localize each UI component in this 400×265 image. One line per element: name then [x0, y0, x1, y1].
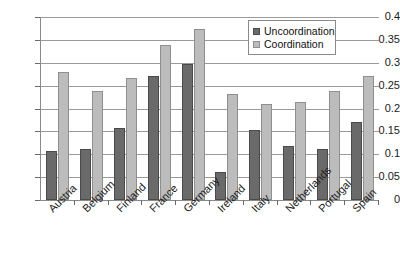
bar-group [109, 17, 143, 200]
legend-swatch-icon [253, 28, 260, 35]
x-tick-mark [74, 200, 75, 205]
x-tick-mark [141, 200, 142, 205]
bar-coordination-germany [194, 29, 205, 200]
legend-swatch-icon [253, 41, 260, 48]
bar-uncoordination-spain [351, 122, 362, 200]
bar-chart: 00.050.10.150.20.250.30.350.4 AustriaBel… [0, 0, 400, 265]
bar-group [176, 17, 210, 200]
bar-uncoordination-germany [182, 64, 193, 200]
x-tick-mark [243, 200, 244, 205]
x-tick-mark [344, 200, 345, 205]
bar-coordination-spain [363, 76, 374, 200]
x-tick-mark [209, 200, 210, 205]
chart-legend: UncoordinationCoordination [248, 20, 336, 55]
x-tick-mark [310, 200, 311, 205]
bar-coordination-austria [58, 72, 69, 200]
bar-uncoordination-france [148, 76, 159, 200]
bar-coordination-finland [126, 78, 137, 200]
bar-uncoordination-austria [46, 151, 57, 200]
legend-label: Uncoordination [264, 26, 335, 37]
bar-group [41, 17, 75, 200]
bar-group [345, 17, 379, 200]
x-tick-mark [175, 200, 176, 205]
bar-coordination-france [160, 45, 171, 200]
legend-item-uncoordination[interactable]: Uncoordination [253, 25, 331, 37]
bar-uncoordination-finland [114, 128, 125, 200]
x-tick-mark [108, 200, 109, 205]
bar-group [210, 17, 244, 200]
x-tick-mark [378, 200, 379, 205]
bar-coordination-italy [261, 104, 272, 200]
bar-group [142, 17, 176, 200]
legend-label: Coordination [264, 39, 324, 50]
bar-uncoordination-italy [249, 130, 260, 200]
bar-group [75, 17, 109, 200]
x-tick-mark [277, 200, 278, 205]
bar-uncoordination-netherlands [283, 146, 294, 200]
legend-item-coordination[interactable]: Coordination [253, 38, 331, 50]
bar-uncoordination-belgium [80, 149, 91, 200]
